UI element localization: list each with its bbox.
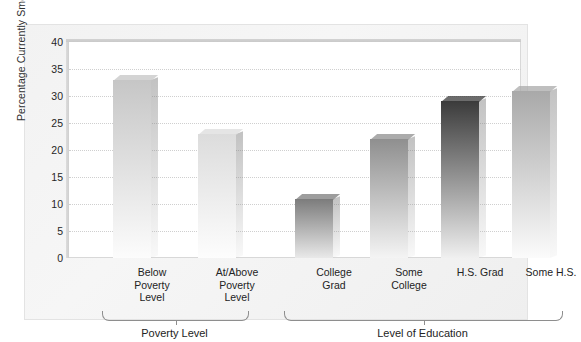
x-axis-label-line: Poverty	[194, 279, 280, 292]
bar-top	[113, 75, 158, 81]
group-level-of-education-label: Level of Education	[377, 327, 468, 339]
bar-side	[151, 77, 158, 258]
x-axis-label-line: Poverty	[109, 279, 195, 292]
gridline	[69, 69, 521, 70]
bar-some-college	[370, 139, 408, 258]
x-axis-label: Some H.S.	[508, 266, 581, 279]
y-tick-label: 5	[57, 225, 63, 237]
bar-top	[512, 86, 557, 92]
bar-hs-grad	[441, 101, 479, 258]
bar-top	[370, 134, 415, 140]
bar-face	[198, 134, 236, 258]
y-tick-label: 20	[51, 144, 63, 156]
bar-top	[295, 194, 340, 200]
bracket-nub	[176, 320, 177, 325]
x-axis-label-line: Grad	[291, 279, 377, 292]
bar-side	[408, 136, 415, 258]
y-tick-label: 40	[51, 36, 63, 48]
y-tick-label: 10	[51, 198, 63, 210]
x-axis-label-line: At/Above	[194, 266, 280, 279]
y-tick-label: 35	[51, 63, 63, 75]
bar-college-grad	[295, 199, 333, 258]
x-axis-label-line: College	[291, 266, 377, 279]
x-axis-label-line: Level	[109, 291, 195, 304]
bar-face	[441, 101, 479, 258]
y-tick-label: 0	[57, 252, 63, 264]
bar-face	[512, 91, 550, 258]
bar-at-above-poverty-level	[198, 134, 236, 258]
x-axis-label: CollegeGrad	[291, 266, 377, 291]
bracket-nub	[424, 320, 425, 325]
bar-side	[479, 99, 486, 258]
chart-figure: Percentage Currently Smoking 40353025201…	[24, 24, 528, 320]
y-tick-label: 15	[51, 171, 63, 183]
bar-top	[198, 129, 243, 135]
bar-face	[113, 80, 151, 258]
x-axis-label-line: Some H.S.	[508, 266, 581, 279]
x-axis-label-line: Level	[194, 291, 280, 304]
bar-below-poverty-level	[113, 80, 151, 258]
group-poverty-level-label: Poverty Level	[141, 327, 208, 339]
x-axis-label: At/AbovePovertyLevel	[194, 266, 280, 304]
x-axis-label: BelowPovertyLevel	[109, 266, 195, 304]
x-axis-label-line: Below	[109, 266, 195, 279]
bar-side	[236, 131, 243, 258]
bar-face	[295, 199, 333, 258]
y-axis-title: Percentage Currently Smoking	[15, 0, 27, 121]
bar-top	[441, 96, 486, 102]
plot-area: 4035302520151050	[69, 42, 521, 258]
bar-side	[550, 88, 557, 258]
y-tick-label: 25	[51, 117, 63, 129]
bar-side	[333, 196, 340, 258]
x-axis-label-line: College	[366, 279, 452, 292]
group-level-of-education-bracket	[284, 311, 563, 321]
group-poverty-level-bracket	[102, 311, 249, 321]
bar-face	[370, 139, 408, 258]
y-tick-label: 30	[51, 90, 63, 102]
bar-some-hs	[512, 91, 550, 258]
